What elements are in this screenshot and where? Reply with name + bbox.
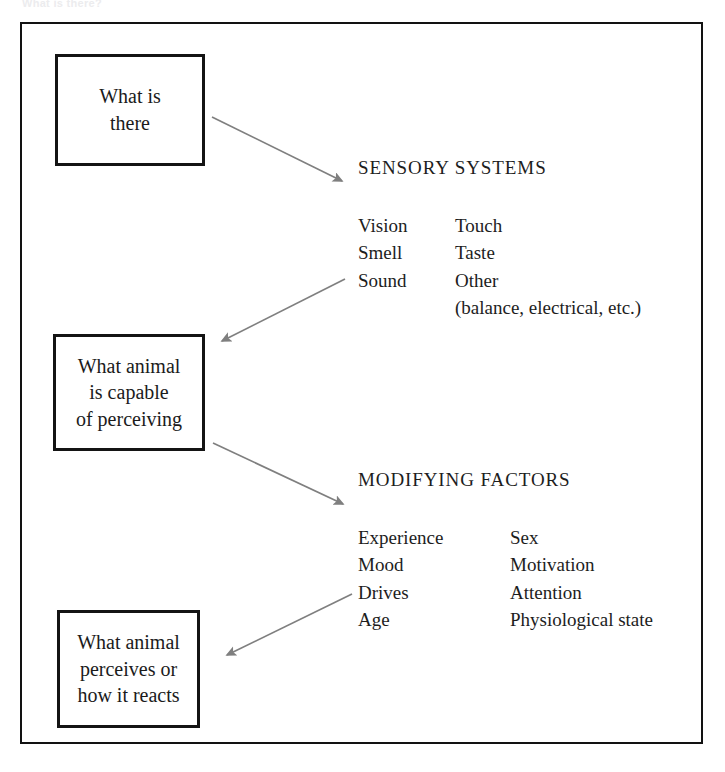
modifying-item-age: Age xyxy=(358,606,510,633)
sensory-item-smell: Smell xyxy=(358,239,455,266)
modifying-item-sex: Sex xyxy=(510,524,653,551)
modifying-item-drives: Drives xyxy=(358,579,510,606)
modifying-item-mood: Mood xyxy=(358,551,510,578)
heading-modifying-factors: MODIFYING FACTORS xyxy=(358,469,571,491)
box-what-is-there-label: What is there xyxy=(93,83,167,136)
sensory-item-vision: Vision xyxy=(358,212,455,239)
box-what-is-there: What is there xyxy=(55,54,205,166)
box-what-animal-perceives: What animal perceives or how it reacts xyxy=(57,610,200,728)
sensory-item-other: Other xyxy=(455,267,641,294)
modifying-item-attention: Attention xyxy=(510,579,653,606)
box-what-animal-is-capable: What animal is capable of perceiving xyxy=(53,334,205,451)
box-what-animal-is-capable-label: What animal is capable of perceiving xyxy=(70,353,188,433)
modifying-item-experience: Experience xyxy=(358,524,510,551)
sensory-item-touch: Touch xyxy=(455,212,641,239)
sensory-spacer xyxy=(358,294,455,321)
diagram-root: What is there? What is there What animal… xyxy=(0,0,725,772)
sensory-item-other-note: (balance, electrical, etc.) xyxy=(455,294,641,321)
modifying-item-motivation: Motivation xyxy=(510,551,653,578)
scan-caption: What is there? xyxy=(22,0,102,9)
sensory-item-taste: Taste xyxy=(455,239,641,266)
box-what-animal-perceives-label: What animal perceives or how it reacts xyxy=(71,629,186,709)
sensory-item-sound: Sound xyxy=(358,267,455,294)
list-sensory-systems: Vision Touch Smell Taste Sound Other (ba… xyxy=(358,212,641,321)
modifying-item-physiological-state: Physiological state xyxy=(510,606,653,633)
list-modifying-factors: Experience Sex Mood Motivation Drives At… xyxy=(358,524,653,633)
heading-sensory-systems: SENSORY SYSTEMS xyxy=(358,157,547,179)
